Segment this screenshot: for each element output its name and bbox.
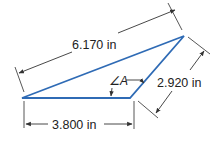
dimension-line-lower-part [156, 91, 172, 113]
extension-line-bottom [138, 101, 158, 118]
angle-a-label: ∠A [109, 74, 128, 88]
bottom-side-dimension: 3.800 in [24, 101, 134, 132]
diagram-svg: 6.170 in 2.920 in 3.800 in ∠A [0, 0, 221, 145]
long-side-label: 6.170 in [72, 38, 117, 52]
dimension-line-left-part [19, 52, 72, 73]
right-side-label: 2.920 in [157, 76, 202, 90]
dimension-line-right-part [118, 10, 175, 33]
dimension-line-upper-part [190, 51, 204, 70]
angle-arrow-down [111, 88, 112, 96]
extension-line-top [188, 37, 210, 54]
extension-line-left [15, 67, 24, 92]
bottom-side-label: 3.800 in [52, 118, 97, 132]
triangle-diagram: 6.170 in 2.920 in 3.800 in ∠A [0, 0, 221, 145]
angle-a-annotation: ∠A [109, 74, 144, 96]
angle-arrow-right [126, 80, 144, 83]
extension-line-top-right [168, 3, 182, 30]
